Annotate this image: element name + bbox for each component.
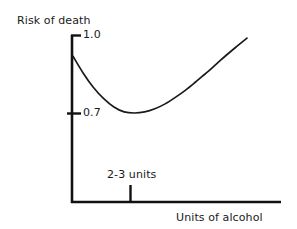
- x-axis-label: Units of alcohol: [176, 212, 263, 224]
- y-axis-label: Risk of death: [17, 15, 90, 27]
- risk-curve-line: [73, 38, 247, 113]
- x-tick-label: 2-3 units: [107, 169, 156, 181]
- risk-curve-plot: [0, 0, 297, 229]
- y-tick-label-mid: 0.7: [83, 107, 101, 119]
- chart-figure: Risk of death Units of alcohol 1.0 0.7 2…: [0, 0, 297, 229]
- y-tick-label-top: 1.0: [83, 29, 101, 41]
